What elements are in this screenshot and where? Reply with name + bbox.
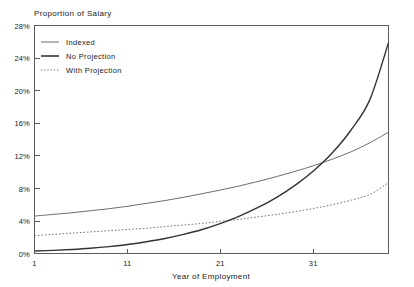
x-tick-labels: 1 11 21 31	[32, 259, 317, 268]
x-axis-title: Year of Employment	[172, 272, 250, 281]
screenshot-root: 28% 24% 20% 16% 12% 8% 4% 0% 1 11 21 31 …	[0, 0, 414, 287]
y-axis-ticks	[35, 26, 40, 254]
legend-label-with-projection: With Projection	[66, 66, 122, 75]
series-line-indexed	[35, 132, 389, 216]
legend-label-indexed: Indexed	[66, 38, 95, 47]
y-tick-label: 8%	[19, 185, 30, 194]
x-tick-label: 21	[216, 259, 225, 268]
y-tick-labels: 28% 24% 20% 16% 12% 8% 4% 0%	[14, 22, 30, 259]
y-tick-label: 4%	[19, 217, 30, 226]
x-tick-label: 1	[32, 259, 36, 268]
y-tick-label: 16%	[14, 119, 30, 128]
y-tick-label: 28%	[14, 22, 30, 31]
x-tick-label: 31	[309, 259, 318, 268]
chart-svg: 28% 24% 20% 16% 12% 8% 4% 0% 1 11 21 31 …	[0, 0, 414, 287]
legend: Indexed No Projection With Projection	[41, 38, 122, 75]
y-tick-label: 24%	[14, 54, 30, 63]
y-tick-label: 20%	[14, 87, 30, 96]
y-tick-label: 12%	[14, 152, 30, 161]
chart-figure: 28% 24% 20% 16% 12% 8% 4% 0% 1 11 21 31 …	[0, 0, 414, 287]
chart-title: Proportion of Salary	[34, 9, 112, 18]
x-tick-label: 11	[123, 259, 131, 268]
legend-label-no-projection: No Projection	[66, 52, 116, 61]
y-tick-label: 0%	[19, 250, 30, 259]
series-line-with-projection	[35, 183, 389, 236]
